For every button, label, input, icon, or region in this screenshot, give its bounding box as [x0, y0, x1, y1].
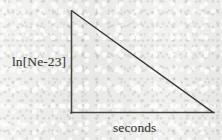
x-axis-label: seconds [113, 121, 156, 135]
plot-drawing [0, 0, 222, 140]
y-axis-label: ln[Ne-23] [12, 55, 66, 69]
decay-line-series [72, 11, 213, 112]
decay-plot-figure: ln[Ne-23] seconds [0, 0, 222, 140]
